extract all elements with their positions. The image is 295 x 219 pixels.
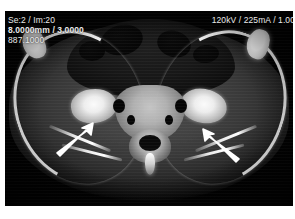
sacral-canal-lumen <box>139 135 161 151</box>
sacral-foramen <box>127 115 135 125</box>
dicom-viewer: Se:2 / Im:20 8.0000mm / 3.0000 887.1000 … <box>0 0 295 219</box>
overlay-technique-line: 120kV / 225mA / 1.00 <box>212 15 293 25</box>
overlay-window-line: 887.1000 <box>8 35 84 45</box>
page-margin-right <box>293 0 295 219</box>
overlay-series-line: Se:2 / Im:20 <box>8 15 84 25</box>
ct-image-canvas[interactable]: Se:2 / Im:20 8.0000mm / 3.0000 887.1000 … <box>5 11 293 206</box>
overlay-thickness-line: 8.0000mm / 3.0000 <box>8 25 84 35</box>
page-margin-left <box>0 0 5 219</box>
overlay-text-right: 120kV / 225mA / 1.00 <box>212 15 293 25</box>
page-margin-bottom <box>0 206 295 219</box>
sacral-foramen <box>165 115 173 125</box>
page-margin-top <box>0 0 295 11</box>
sacral-foramen <box>175 99 187 113</box>
spinous-process <box>145 153 155 175</box>
overlay-text-left: Se:2 / Im:20 8.0000mm / 3.0000 887.1000 <box>8 15 84 45</box>
sacral-foramen <box>113 99 125 113</box>
